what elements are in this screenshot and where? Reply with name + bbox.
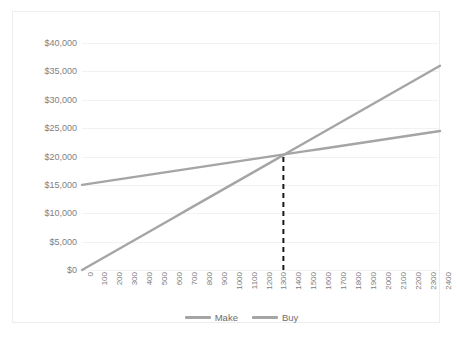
- legend-swatch-icon: [185, 316, 211, 319]
- x-tick-label: 900: [220, 272, 229, 285]
- x-tick-label: 200: [115, 272, 124, 285]
- x-tick-label: 700: [190, 272, 199, 285]
- y-tick-label: $0: [21, 265, 77, 275]
- x-tick-label: 1500: [309, 272, 318, 290]
- x-tick-label: 300: [130, 272, 139, 285]
- x-tick-label: 800: [205, 272, 214, 285]
- y-tick-label: $35,000: [21, 66, 77, 76]
- legend-label: Make: [215, 312, 238, 323]
- x-axis-tick-labels: 0100200300400500600700800900100011001200…: [82, 272, 440, 312]
- series-layer: [82, 43, 440, 270]
- legend-label: Buy: [282, 312, 298, 323]
- y-axis-tick-labels: $0$5,000$10,000$15,000$20,000$25,000$30,…: [17, 43, 77, 270]
- x-tick-label: 1700: [339, 272, 348, 290]
- y-tick-label: $10,000: [21, 208, 77, 218]
- y-tick-label: $20,000: [21, 152, 77, 162]
- chart-legend: MakeBuy: [13, 312, 457, 323]
- x-tick-label: 100: [100, 272, 109, 285]
- y-tick-label: $30,000: [21, 95, 77, 105]
- chart-frame: $0$5,000$10,000$15,000$20,000$25,000$30,…: [12, 11, 440, 323]
- x-tick-label: 400: [145, 272, 154, 285]
- x-tick-label: 1000: [235, 272, 244, 290]
- x-tick-label: 1400: [294, 272, 303, 290]
- data-series-group: [82, 66, 440, 270]
- series-line-make: [82, 66, 440, 270]
- x-tick-label: 500: [160, 272, 169, 285]
- plot-area: [82, 43, 440, 270]
- x-tick-label: 1900: [369, 272, 378, 290]
- x-tick-label: 2000: [384, 272, 393, 290]
- legend-item-make[interactable]: Make: [185, 312, 238, 323]
- x-tick-label: 2200: [414, 272, 423, 290]
- x-tick-label: 1600: [324, 272, 333, 290]
- x-tick-label: 0: [86, 272, 95, 276]
- legend-item-buy[interactable]: Buy: [252, 312, 298, 323]
- y-tick-label: $25,000: [21, 123, 77, 133]
- y-tick-label: $5,000: [21, 237, 77, 247]
- legend-swatch-icon: [252, 316, 278, 319]
- y-tick-label: $40,000: [21, 38, 77, 48]
- x-tick-label: 1100: [250, 272, 259, 289]
- y-tick-label: $15,000: [21, 180, 77, 190]
- x-tick-label: 1200: [265, 272, 274, 290]
- x-tick-label: 1300: [279, 272, 288, 290]
- x-tick-label: 1800: [354, 272, 363, 290]
- series-line-buy: [82, 131, 440, 185]
- x-tick-label: 2400: [444, 272, 453, 290]
- x-tick-label: 2300: [429, 272, 438, 290]
- x-tick-label: 2100: [399, 272, 408, 290]
- x-tick-label: 600: [175, 272, 184, 285]
